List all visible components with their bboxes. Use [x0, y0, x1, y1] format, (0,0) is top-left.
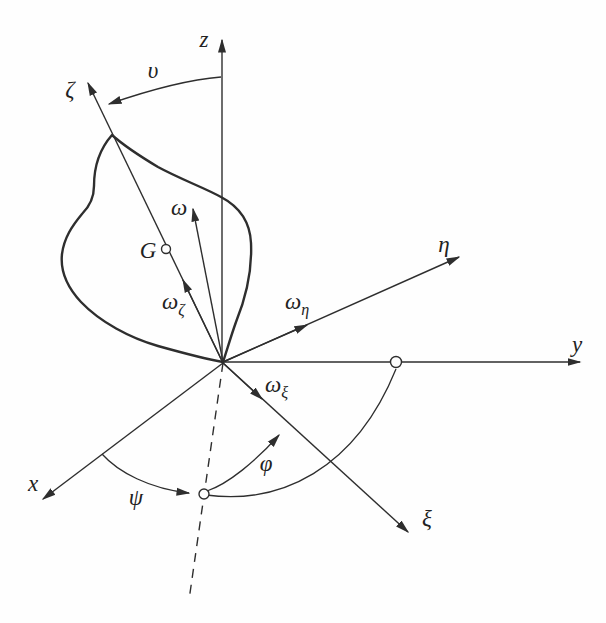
center-of-mass-label: G	[140, 238, 157, 263]
center-of-mass-point	[162, 245, 171, 254]
omega-zeta-label: ωζ	[162, 289, 186, 319]
omega-xi-label-base: ω	[265, 372, 281, 397]
precession-angle-arc	[102, 454, 189, 493]
omega-eta-label-base: ω	[285, 289, 301, 314]
line-of-nodes	[189, 363, 223, 600]
node-to-y-axis-arc	[206, 369, 396, 497]
omega-vector	[193, 209, 223, 362]
omega-zeta-label-sub: ζ	[178, 301, 186, 319]
omega-xi-component	[223, 363, 262, 399]
zeta-axis-label: ζ	[65, 77, 76, 102]
omega-zeta-label-base: ω	[162, 289, 178, 314]
omega-eta-component	[223, 325, 307, 362]
nutation-angle-label: υ	[148, 58, 159, 83]
eta-axis-label: η	[438, 232, 449, 257]
rigid-body-outline	[62, 135, 251, 362]
precession-angle-label: ψ	[129, 485, 144, 510]
omega-eta-label: ωη	[285, 289, 309, 319]
omega-xi-label: ωξ	[265, 372, 288, 401]
z-axis-label: z	[199, 27, 209, 52]
omega-eta-label-sub: η	[301, 301, 309, 319]
y-axis-label: y	[570, 332, 583, 357]
omega-xi-label-sub: ξ	[281, 384, 288, 401]
xi-axis-label: ξ	[422, 506, 432, 531]
omega-vector-label: ω	[171, 195, 187, 220]
node-point	[199, 489, 209, 499]
x-axis	[43, 363, 223, 499]
euler-angles-figure: z y x ζ η ξ υ ψ φ ω G ωζ ωη ωξ	[0, 0, 606, 623]
x-axis-label: x	[27, 471, 39, 496]
omega-zeta-component	[183, 280, 223, 363]
rotation-angle-label: φ	[260, 451, 273, 476]
euler-angles-diagram: z y x ζ η ξ υ ψ φ ω G ωζ ωη ωξ	[0, 0, 606, 623]
nutation-angle-arc	[109, 77, 221, 104]
y-axis-point	[391, 357, 402, 368]
